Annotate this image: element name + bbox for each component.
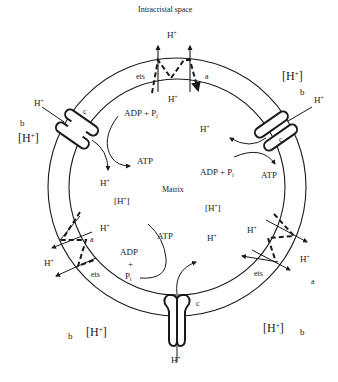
proton-conc-matrix-left: [H+] <box>114 197 130 206</box>
proton-ets-left-in: H+ <box>100 224 110 233</box>
adp-bottom: ADP <box>120 248 138 257</box>
atp-right: ATP <box>261 171 277 180</box>
proton-ets-right-in: H+ <box>247 226 257 235</box>
b-right-label: b <box>300 88 305 97</box>
c-left-label: c <box>83 108 87 116</box>
plus-bottom: + <box>128 260 133 269</box>
atp-synthase-right <box>253 109 299 152</box>
proton-ets-right-out: H+ <box>300 255 310 264</box>
proton-left-out: H+ <box>34 99 44 108</box>
adp-pi-right: ADP + Pi <box>200 168 234 177</box>
proton-left-in: H+ <box>100 179 110 188</box>
ets-top <box>152 46 198 93</box>
ets-top-label: ets <box>136 73 145 81</box>
b-left-label: b <box>20 119 25 128</box>
c-right-label: c <box>279 136 283 144</box>
proton-right-out: H+ <box>314 96 324 105</box>
atp-synthase-left <box>54 107 100 150</box>
a-left-label: a <box>90 236 94 244</box>
adp-pi-left: ADP + Pi <box>124 109 158 118</box>
pi-bottom: Pi <box>125 272 132 281</box>
proton-conc-bottom-left: [H+] <box>86 326 107 338</box>
atp-bottom: ATP <box>157 232 173 241</box>
proton-bottom-out: H+ <box>171 356 181 365</box>
proton-top-out: H+ <box>167 31 177 40</box>
proton-conc-matrix-right: [H+] <box>205 204 221 213</box>
ets-left-label: ets <box>91 271 100 279</box>
a-right-label: a <box>311 278 315 286</box>
ets-right-label: ets <box>254 270 263 278</box>
b-bottom-right-label: b <box>300 328 305 337</box>
b-bottom-left-label: b <box>68 332 73 341</box>
proton-ets-left-out: H+ <box>44 259 54 268</box>
proton-right-in: H+ <box>200 125 210 134</box>
intracristal-space-label: Intracristal space <box>138 6 192 14</box>
a-top-label: a <box>205 73 209 81</box>
matrix-label: Matrix <box>162 186 184 194</box>
c-bottom-label: c <box>196 300 200 308</box>
proton-conc-bottom-right: [H+] <box>263 322 284 334</box>
ets-right <box>242 214 307 270</box>
atp-synthase-bottom <box>164 295 189 346</box>
proton-conc-left: [H+] <box>18 132 39 144</box>
proton-conc-top-right: [H+] <box>282 70 303 82</box>
ets-left <box>52 212 96 276</box>
proton-bottom-in: H+ <box>207 234 217 243</box>
proton-top-in: H+ <box>168 95 178 104</box>
atp-left: ATP <box>137 157 153 166</box>
